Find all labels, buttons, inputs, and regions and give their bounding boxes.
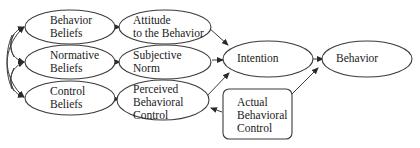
node-label: Normative — [50, 49, 99, 61]
edge-control-to-normative-beliefs — [11, 62, 24, 91]
edge-behavior-to-normative-beliefs — [11, 34, 24, 62]
node-label: Behavior — [336, 52, 378, 64]
node-label: Control — [237, 122, 272, 134]
edge-actual-control-to-perceived-control — [211, 108, 222, 112]
node-behavior-beliefs: Behavior Beliefs — [25, 10, 115, 44]
node-label: Behavior — [50, 14, 92, 26]
node-normative-beliefs: Normative Beliefs — [25, 45, 115, 79]
node-label: Subjective — [133, 49, 182, 62]
tpb-diagram: Behavior Beliefs Normative Beliefs Contr… — [0, 0, 420, 148]
node-label: Behavioral — [237, 109, 287, 121]
node-label: Beliefs — [50, 62, 83, 74]
node-label: Perceived — [133, 83, 179, 95]
node-attitude: Attitude to the Behavior — [119, 10, 211, 44]
node-control-beliefs: Control Beliefs — [25, 81, 115, 115]
node-label: Control — [133, 109, 168, 121]
node-actual-control: Actual Behavioral Control — [223, 89, 292, 139]
node-label: Actual — [237, 96, 268, 108]
belief-correlation-arrows — [7, 27, 24, 97]
node-subjective-norm: Subjective Norm — [119, 45, 211, 79]
edge-behavior-to-control-beliefs — [7, 35, 24, 97]
node-perceived-control: Perceived Behavioral Control — [117, 80, 209, 121]
node-label: Attitude — [133, 14, 171, 26]
node-behavior: Behavior — [322, 41, 412, 77]
node-label: Behavioral — [133, 96, 183, 108]
node-label: Control — [50, 85, 85, 97]
node-label: Beliefs — [50, 98, 83, 110]
node-label: to the Behavior — [133, 27, 204, 39]
node-intention: Intention — [223, 41, 313, 77]
node-label: Beliefs — [50, 27, 83, 39]
node-label: Intention — [237, 52, 279, 64]
node-label: Norm — [133, 62, 160, 74]
